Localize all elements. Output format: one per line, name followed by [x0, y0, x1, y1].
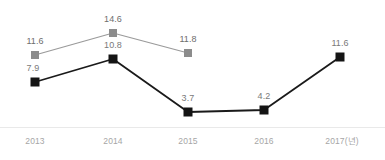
value-label-black-2015: 3.7 — [182, 93, 195, 104]
x-tick-2013: 2013 — [25, 135, 44, 147]
value-label-gray-2013: 11.6 — [26, 36, 43, 47]
line-chart: 11.6 14.6 11.8 7.9 10.8 3.7 4.2 11.6 201… — [0, 0, 385, 160]
x-tick-2014: 2014 — [103, 135, 122, 147]
x-tick-2017: 2017(년) — [325, 135, 358, 147]
x-tick-2016: 2016 — [254, 135, 273, 147]
value-label-black-2017: 11.6 — [331, 38, 348, 49]
value-label-gray-2014: 14.6 — [104, 14, 122, 25]
x-tick-2015: 2015 — [178, 135, 197, 147]
value-label-black-2013: 7.9 — [27, 63, 40, 74]
value-label-black-2016: 4.2 — [258, 91, 271, 102]
value-label-gray-2015: 11.8 — [179, 34, 196, 45]
value-label-black-2014: 10.8 — [104, 40, 122, 51]
x-axis-tick-labels: 2013 2014 2015 2016 2017(년) — [0, 135, 385, 151]
